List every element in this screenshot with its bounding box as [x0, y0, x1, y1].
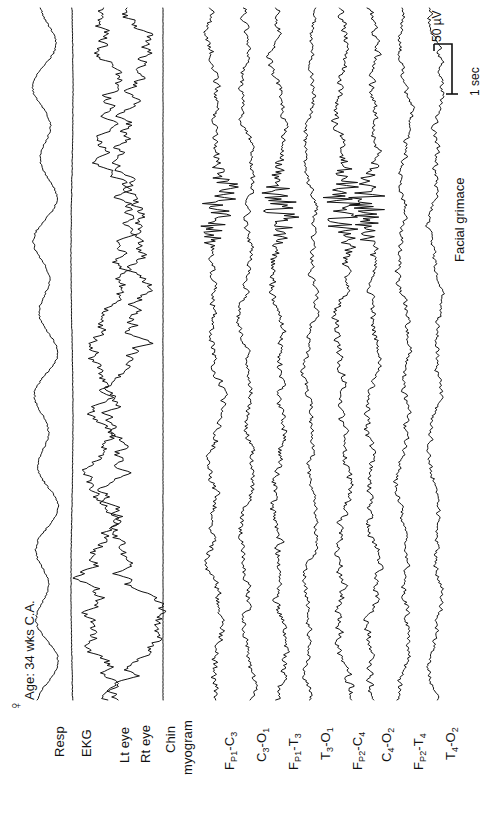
trace-ekg	[71, 8, 74, 700]
trace-t3-o1	[301, 8, 319, 700]
trace-f-p2-t4	[393, 8, 414, 700]
channel-label-fp2-c4: FP2-C4	[350, 732, 365, 770]
channel-label-c3-o1: C3-O1	[254, 728, 269, 762]
channel-label-t3-o1: T3-O1	[318, 727, 333, 760]
trace-lt-eye	[73, 8, 147, 700]
trace-t4-o2	[426, 8, 445, 700]
channel-label-fp1-t3: FP1-T3	[286, 733, 301, 770]
trace-rt-eye	[82, 8, 166, 700]
channel-label-c4-o2: C4-O2	[379, 728, 394, 762]
scalebar-amplitude-label: 50 µV	[430, 10, 444, 42]
channel-label-fp1-c3: FP1-C3	[222, 732, 237, 770]
channel-label-fp2-t4: FP2-T4	[411, 733, 426, 770]
channel-label-resp: Resp	[52, 726, 67, 757]
trace-f-p1-t3	[262, 8, 299, 700]
trace-resp	[32, 8, 59, 700]
trace-f-p2-c4	[323, 8, 360, 700]
event-annotation-facial-grimace: Facial grimace	[452, 177, 467, 262]
channel-label-lt-eye: Lt eye	[117, 727, 132, 763]
sex-symbol: ♀	[8, 700, 24, 712]
channel-label-t4-o2: T4-O2	[443, 727, 458, 760]
channel-label-myogram: myogram	[180, 720, 195, 775]
subject-info: Age: 34 wks C.A.	[22, 600, 37, 700]
trace-f-p1-c3	[201, 8, 239, 700]
channel-label-rt-eye: Rt eye	[138, 725, 153, 763]
trace-c3-o1	[236, 8, 257, 700]
scalebar-time-label: 1 sec	[468, 67, 482, 96]
trace-c4-o2	[349, 8, 385, 700]
channel-label-chin: Chin	[163, 726, 178, 753]
channel-label-ekg: EKG	[79, 729, 94, 757]
calibration-scalebar	[432, 42, 458, 96]
